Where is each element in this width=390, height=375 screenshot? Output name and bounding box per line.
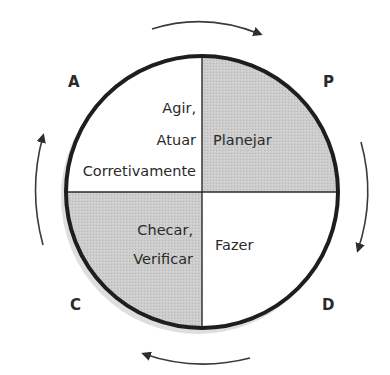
quadrant-check-line-2: Verificar	[133, 252, 193, 267]
arrow-right-icon	[358, 142, 368, 250]
quadrant-check-line-1: Checar,	[137, 223, 193, 238]
arrow-top-icon	[152, 22, 260, 34]
arrow-left-icon	[36, 136, 44, 245]
quadrant-act-line-1: Agir,	[162, 101, 196, 116]
letter-a: A	[68, 73, 80, 91]
letter-c: C	[70, 296, 81, 314]
quadrant-act-line-3: Corretivamente	[83, 164, 196, 179]
quadrant-act-line-2: Atuar	[157, 133, 196, 148]
quadrant-do-label: Fazer	[215, 238, 253, 253]
letter-p: P	[323, 73, 334, 91]
quadrant-plan-fill	[202, 50, 342, 192]
arrow-bottom-icon	[144, 354, 250, 364]
pdca-diagram	[0, 0, 390, 375]
letter-d: D	[322, 296, 334, 314]
quadrant-plan-label: Planejar	[213, 133, 272, 148]
